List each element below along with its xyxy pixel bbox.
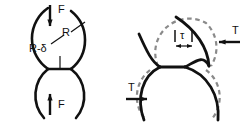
right-panel-tangential-load: τ T T <box>126 17 240 120</box>
lower-sphere-dashed-outline <box>137 70 220 120</box>
lower-sphere-arc-left <box>35 69 48 118</box>
tau-label: τ <box>180 29 185 41</box>
lower-sphere-arc-right <box>71 69 84 118</box>
approach-leader-line <box>51 35 64 44</box>
force-top-label: F <box>58 3 65 15</box>
approach-label: R-δ <box>29 42 47 54</box>
force-bottom-label: F <box>58 98 65 110</box>
contact-mechanics-figure: F F R R-δ <box>0 0 246 125</box>
traction-top-label: T <box>232 24 239 36</box>
upper-sphere-arc-left <box>32 8 48 69</box>
lower-sphere-solid-arc-right <box>185 67 218 120</box>
left-panel-normal-load: F F R R-δ <box>29 3 85 118</box>
traction-bottom-label: T <box>128 81 135 93</box>
upper-sphere-arc-right <box>71 11 85 69</box>
figure-canvas: F F R R-δ <box>0 0 246 125</box>
upper-sphere-solid-arc-cap <box>185 60 209 67</box>
lower-sphere-solid-arc-left <box>141 67 160 120</box>
